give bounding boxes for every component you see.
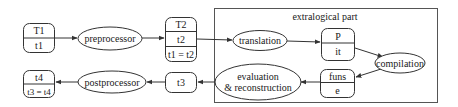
node-funs: funs e (321, 70, 355, 98)
translation-label: translation (239, 35, 281, 46)
p-program-label: P (335, 31, 341, 42)
node-evaluation-reconstruction: evaluation & reconstruction (215, 64, 301, 100)
edge-t2-translation (197, 39, 232, 40)
t4-equation-label: t3 = t4 (27, 87, 51, 97)
evaluation-label-line1: evaluation (237, 71, 279, 82)
t1-term-label: t1 (35, 40, 43, 51)
edge-p-compilation (355, 48, 383, 57)
t3-label: t3 (177, 77, 185, 88)
node-compilation: compilation (375, 53, 425, 73)
node-t1: T1 t1 (24, 24, 55, 53)
node-translation: translation (233, 31, 287, 51)
compilation-label: compilation (376, 58, 424, 69)
node-t3: t3 (166, 73, 197, 93)
p-it-label: it (335, 46, 341, 57)
e-label: e (335, 85, 340, 96)
node-postprocessor: postprocessor (78, 71, 146, 93)
pipeline-diagram: extralogical part T1 t1 preprocessor T2 … (0, 0, 458, 107)
evaluation-label-line2: & reconstruction (224, 82, 291, 93)
edge-translation-p (287, 41, 320, 42)
edge-compilation-funs (356, 69, 381, 77)
t4-label: t4 (35, 72, 43, 83)
t2-type-label: T2 (175, 19, 186, 30)
node-p: P it (322, 29, 355, 61)
t2-term-label: t2 (177, 34, 185, 45)
postprocessor-label: postprocessor (85, 77, 141, 88)
preprocessor-label: preprocessor (84, 33, 136, 44)
node-t2: T2 t2 t1 = t2 (166, 18, 197, 62)
t1-type-label: T1 (33, 25, 44, 36)
frame-label: extralogical part (292, 11, 357, 22)
funs-label: funs (329, 71, 346, 82)
node-t4: t4 t3 = t4 (24, 71, 55, 98)
t2-equation-label: t1 = t2 (168, 49, 194, 60)
node-preprocessor: preprocessor (78, 27, 142, 50)
